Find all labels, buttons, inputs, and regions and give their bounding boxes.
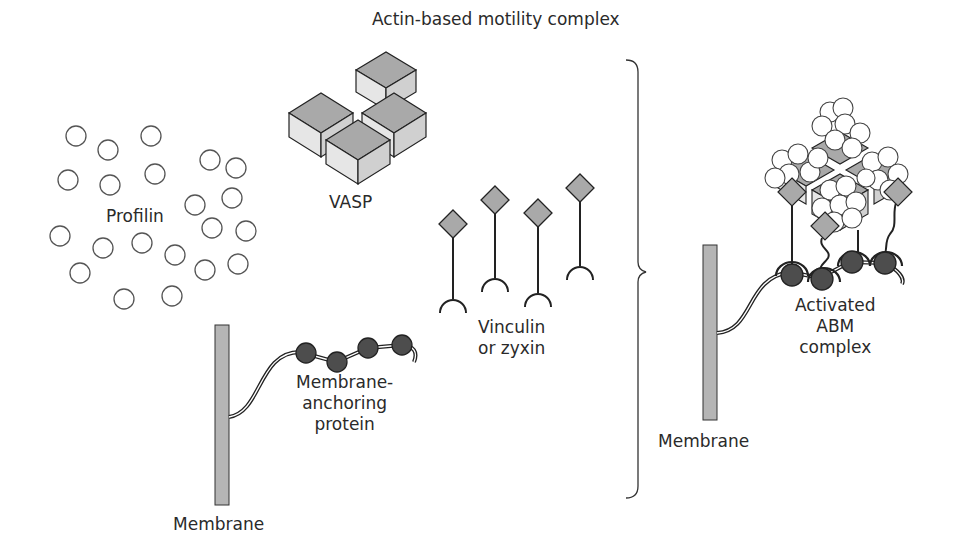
profilin-circle-icon xyxy=(132,233,152,253)
profilin-circle-icon xyxy=(162,286,182,306)
profilin-circle-icon xyxy=(236,221,256,241)
membrane-left-label: Membrane xyxy=(173,514,264,535)
activated-abm-label: Activated ABM complex xyxy=(795,295,875,358)
activated-label-line2: ABM xyxy=(795,316,875,337)
figure-title: Actin-based motility complex xyxy=(372,9,620,30)
profilin-label: Profilin xyxy=(106,206,164,227)
profilin-circle-icon xyxy=(66,126,86,146)
profilin-circle-icon xyxy=(200,150,220,170)
activated-label-line3: complex xyxy=(795,337,875,358)
anchoring-label-line1: Membrane- xyxy=(296,372,393,393)
profilin-circle-icon xyxy=(228,254,248,274)
membrane-left xyxy=(215,325,229,505)
profilin-circle-icon xyxy=(100,175,120,195)
vasp-label: VASP xyxy=(329,192,372,213)
vinculin-label: Vinculin or zyxin xyxy=(478,317,545,359)
profilin-circle-icon xyxy=(93,238,113,258)
anchoring-label-line3: protein xyxy=(296,414,393,435)
grouping-brace xyxy=(626,60,646,498)
vinculin-label-line1: Vinculin xyxy=(478,317,545,338)
profilin-circle-icon xyxy=(226,158,246,178)
membrane-right-label: Membrane xyxy=(658,431,749,452)
profilin-circle-icon xyxy=(185,195,205,215)
anchoring-protein-label: Membrane- anchoring protein xyxy=(296,372,393,435)
diagram-graphics xyxy=(0,0,958,556)
vasp-tetramer-icon xyxy=(289,52,426,184)
profilin-circle-icon xyxy=(145,164,165,184)
profilin-circle-icon xyxy=(165,245,185,265)
profilin-circle-icon xyxy=(202,218,222,238)
anchoring-label-line2: anchoring xyxy=(296,393,393,414)
activated-label-line1: Activated xyxy=(795,295,875,316)
diagram-canvas: Actin-based motility complex Profilin VA… xyxy=(0,0,958,556)
profilin-circle-icon xyxy=(50,226,70,246)
profilin-circle-icon xyxy=(222,188,242,208)
profilin-circle-icon xyxy=(195,260,215,280)
profilin-circle-icon xyxy=(70,263,90,283)
profilin-circle-icon xyxy=(141,126,161,146)
profilin-circle-icon xyxy=(98,140,118,160)
membrane-right xyxy=(703,245,717,420)
profilin-circle-icon xyxy=(114,289,134,309)
vinculin-molecules xyxy=(439,174,594,313)
vinculin-label-line2: or zyxin xyxy=(478,338,545,359)
profilin-circle-icon xyxy=(58,170,78,190)
